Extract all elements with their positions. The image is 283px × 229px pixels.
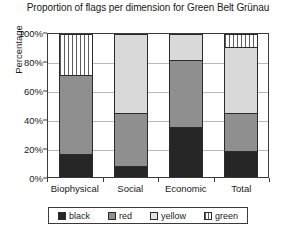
legend-item-red[interactable]: red bbox=[108, 211, 132, 221]
x-tick-label: Biophysical bbox=[47, 183, 103, 194]
y-tick-label: 80% bbox=[24, 57, 43, 68]
legend-label: yellow bbox=[161, 211, 186, 221]
bar-segment-red[interactable] bbox=[225, 113, 257, 152]
legend-item-black[interactable]: black bbox=[58, 211, 90, 221]
x-tick-label: Economic bbox=[158, 183, 214, 194]
x-tick-mark bbox=[269, 178, 270, 182]
chart-title: Proportion of flags per dimension for Gr… bbox=[22, 2, 274, 14]
bar-segment-black[interactable] bbox=[115, 166, 147, 177]
bar-stack bbox=[224, 34, 258, 177]
x-tick-label: Total bbox=[214, 183, 270, 194]
y-tick-label: 40% bbox=[24, 115, 43, 126]
legend-label: black bbox=[69, 211, 90, 221]
bar-segment-red[interactable] bbox=[170, 60, 202, 127]
y-tick-label: 0% bbox=[29, 173, 43, 184]
x-tick-mark bbox=[47, 178, 48, 182]
bar-stack bbox=[59, 34, 93, 177]
bar-stack bbox=[169, 34, 203, 177]
y-tick-label: 60% bbox=[24, 86, 43, 97]
y-tick-label: 100% bbox=[19, 28, 43, 39]
bar-column[interactable] bbox=[48, 34, 103, 177]
x-axis-labels: BiophysicalSocialEconomicTotal bbox=[47, 183, 269, 194]
chart-container: Proportion of flags per dimension for Gr… bbox=[0, 0, 283, 229]
legend-item-yellow[interactable]: yellow bbox=[150, 211, 186, 221]
bar-segment-red[interactable] bbox=[60, 75, 92, 154]
bar-column[interactable] bbox=[103, 34, 158, 177]
bar-segment-green[interactable] bbox=[225, 34, 257, 47]
x-tick-mark bbox=[214, 178, 215, 182]
bar-stack bbox=[114, 34, 148, 177]
chart-legend: blackredyellowgreen bbox=[48, 207, 248, 224]
x-tick-mark bbox=[103, 178, 104, 182]
bar-segment-yellow[interactable] bbox=[115, 34, 147, 113]
bar-segment-black[interactable] bbox=[170, 127, 202, 177]
legend-swatch-yellow bbox=[150, 212, 158, 220]
plot-area bbox=[47, 33, 269, 178]
legend-label: red bbox=[119, 211, 132, 221]
bar-segment-red[interactable] bbox=[115, 113, 147, 166]
legend-swatch-green bbox=[204, 212, 212, 220]
bar-column[interactable] bbox=[213, 34, 268, 177]
y-axis-label: Percentage bbox=[13, 4, 24, 96]
bar-segment-black[interactable] bbox=[225, 151, 257, 177]
x-tick-mark bbox=[158, 178, 159, 182]
bar-segment-green[interactable] bbox=[60, 34, 92, 75]
legend-label: green bbox=[215, 211, 238, 221]
y-tick-label: 20% bbox=[24, 144, 43, 155]
bar-column[interactable] bbox=[158, 34, 213, 177]
legend-swatch-red bbox=[108, 212, 116, 220]
bar-segment-yellow[interactable] bbox=[170, 34, 202, 60]
bar-segment-yellow[interactable] bbox=[225, 47, 257, 113]
bar-group bbox=[48, 34, 268, 177]
legend-item-green[interactable]: green bbox=[204, 211, 238, 221]
bar-segment-black[interactable] bbox=[60, 154, 92, 177]
x-tick-label: Social bbox=[103, 183, 159, 194]
legend-swatch-black bbox=[58, 212, 66, 220]
